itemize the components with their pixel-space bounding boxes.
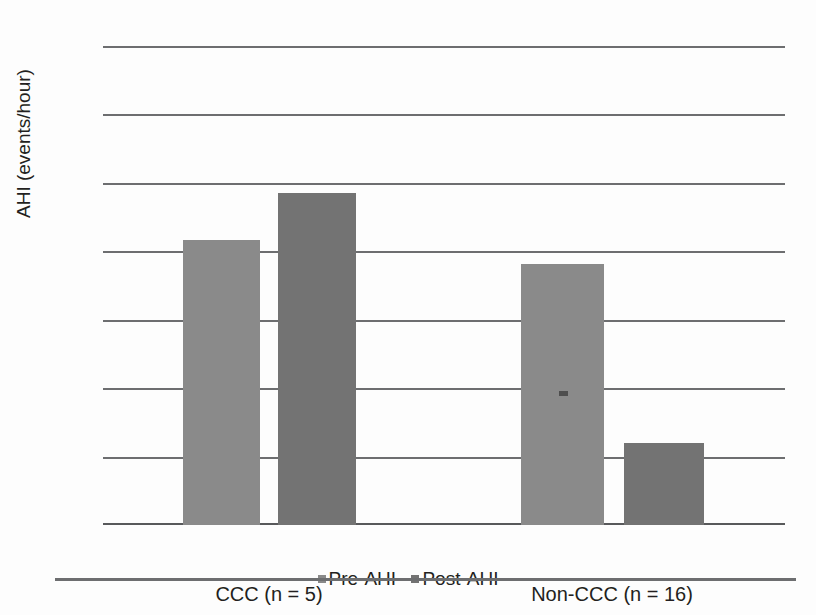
figure-bottom-rule xyxy=(55,578,796,581)
gridline-50 xyxy=(103,183,785,185)
bar-non-ccc-pre-ahi[interactable] xyxy=(521,264,604,525)
gridline-60 xyxy=(103,114,785,116)
bar-ccc-pre-ahi[interactable] xyxy=(183,240,260,525)
gridline-70 xyxy=(103,46,785,48)
bar-ccc-post-ahi[interactable] xyxy=(278,193,356,525)
plot-area: CCC (n = 5) Non-CCC (n = 16) xyxy=(103,46,785,525)
bar-chart-figure: AHI (events/hour) 70 60 50 40 30 20 10 0… xyxy=(0,0,816,615)
scan-artifact-speck xyxy=(559,391,568,396)
y-axis-title: AHI (events/hour) xyxy=(13,69,35,218)
bar-non-ccc-post-ahi[interactable] xyxy=(624,443,704,525)
